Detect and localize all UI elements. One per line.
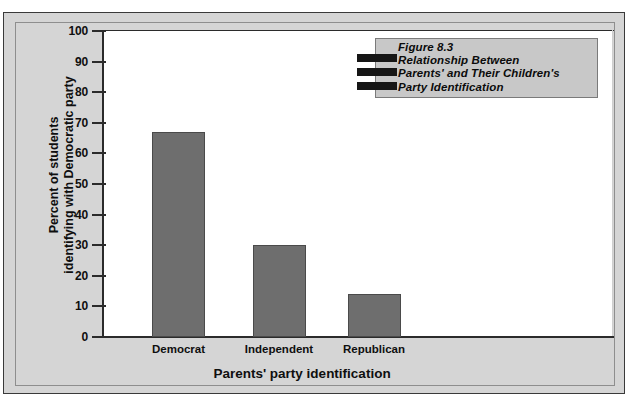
- figure-title-text: Figure 8.3Relationship BetweenParents' a…: [398, 41, 598, 94]
- title-bar-1: [357, 54, 397, 62]
- y-axis-tick-mark: [92, 336, 106, 338]
- figure-title-line-1: Figure 8.3: [398, 41, 598, 54]
- bar-republican: [348, 294, 401, 337]
- y-axis-tick-mark: [92, 30, 106, 32]
- title-bar-2: [357, 68, 397, 76]
- figure-title-line-3: Parents' and Their Children's: [398, 67, 598, 80]
- y-axis-tick-mark: [92, 152, 106, 154]
- figure-screenshot: 1009080706050403020100 Percent of studen…: [0, 0, 637, 407]
- bar-democrat: [152, 132, 205, 337]
- figure-title-line-2: Relationship Between: [398, 54, 598, 67]
- y-axis-tick: 0: [40, 330, 112, 344]
- y-axis-title: Percent of students identifying with Dem…: [47, 35, 77, 315]
- y-axis-tick-mark: [92, 275, 106, 277]
- y-axis-tick-mark: [92, 61, 106, 63]
- plot-top-border: [102, 30, 614, 31]
- x-axis-title: Parents' party identification: [102, 366, 502, 381]
- y-axis-tick-mark: [92, 305, 106, 307]
- bar-independent: [253, 245, 306, 337]
- y-axis-tick-mark: [92, 244, 106, 246]
- plot-right-border: [612, 30, 613, 338]
- x-axis-label-republican: Republican: [314, 343, 434, 355]
- y-axis-tick-mark: [92, 214, 106, 216]
- y-axis-tick-label: 0: [40, 330, 88, 344]
- figure-title-line-4: Party Identification: [398, 81, 598, 94]
- y-axis-tick-mark: [92, 91, 106, 93]
- figure-title-bars-decoration: [357, 54, 397, 91]
- title-bar-3: [357, 82, 397, 90]
- y-axis-tick-mark: [92, 122, 106, 124]
- y-axis-tick-mark: [92, 183, 106, 185]
